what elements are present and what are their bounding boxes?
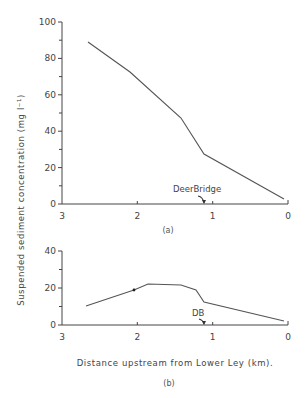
panel-a-xtick-1: 1	[210, 211, 216, 221]
panel-b-label: (b)	[163, 379, 174, 388]
panel-a-ytick-0: 0	[50, 199, 56, 209]
panel-a-label: (a)	[162, 226, 173, 235]
figure: Suspended sediment concentration (mg l⁻¹…	[0, 0, 308, 398]
panel-a-x-ticks	[137, 200, 288, 204]
panel-a-xtick-0: 0	[285, 211, 291, 221]
panel-b-xtick-3: 3	[59, 332, 65, 342]
panel-b-y-ticks	[58, 251, 62, 325]
panel-b-xtick-0: 0	[285, 332, 291, 342]
panel-b-ytick-20: 20	[45, 283, 57, 293]
panel-b-ytick-0: 0	[50, 320, 56, 330]
panel-b-xtick-1: 1	[210, 332, 216, 342]
panel-b-x-ticks	[137, 321, 288, 325]
panel-a-ytick-80: 80	[45, 53, 57, 63]
panel-b-data-point	[133, 289, 136, 292]
panel-b: 0 20 40 3 2 1 0 DB	[45, 246, 292, 342]
x-axis-title: Distance upstream from Lower Ley (km).	[77, 358, 274, 368]
panel-a-y-ticks	[58, 22, 62, 204]
db-label: DB	[192, 308, 205, 318]
deer-bridge-arrowhead-icon	[202, 200, 206, 204]
panel-b-series-line	[86, 284, 284, 321]
panel-a-ytick-40: 40	[45, 126, 57, 136]
panel-a-series-line	[88, 42, 284, 199]
panel-b-ytick-40: 40	[45, 246, 57, 256]
panel-a-ytick-100: 100	[39, 17, 56, 27]
y-axis-title: Suspended sediment concentration (mg l⁻¹…	[16, 94, 26, 306]
panel-a-ytick-20: 20	[45, 163, 57, 173]
panel-a-xtick-2: 2	[134, 211, 140, 221]
panel-a-xtick-3: 3	[59, 211, 65, 221]
panel-a-ytick-60: 60	[45, 90, 57, 100]
db-arrowhead-icon	[202, 321, 206, 325]
panel-b-xtick-2: 2	[134, 332, 140, 342]
deer-bridge-label: DeerBridge	[173, 184, 221, 194]
panel-a: 0 20 40 60 80 100 3 2 1 0 DeerBridge (a)	[39, 17, 291, 235]
